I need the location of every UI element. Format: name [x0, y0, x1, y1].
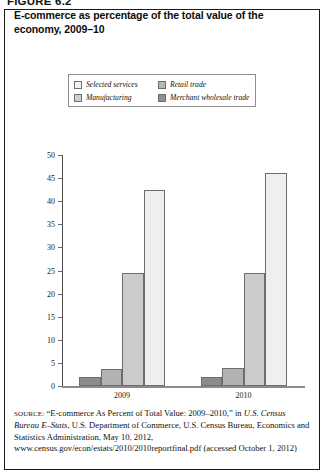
legend-label-merchant-wholesale-trade: Merchant wholesale trade: [170, 93, 249, 102]
legend-label-selected-services: Selected services: [86, 80, 138, 89]
y-tick-10: [58, 340, 62, 341]
legend-label-manufacturing: Manufacturing: [86, 93, 132, 102]
y-tick-label-40: 40: [47, 197, 55, 206]
figure-title: E-commerce as percentage of the total va…: [14, 9, 304, 36]
y-tick-label-0: 0: [51, 382, 55, 391]
legend-item-merchant-wholesale-trade: Merchant wholesale trade: [158, 93, 258, 102]
y-tick-45: [58, 178, 62, 179]
bar-2009-manufacturing: [122, 273, 144, 386]
y-tick-15: [58, 317, 62, 318]
legend-grid: Selected services Retail trade Manufactu…: [74, 78, 258, 104]
bar-2010-retail-trade: [222, 368, 244, 386]
legend-item-retail-trade: Retail trade: [158, 80, 258, 89]
y-tick-label-30: 30: [47, 243, 55, 252]
y-tick-label-50: 50: [47, 151, 55, 160]
figure-number-label: FIGURE 6.2: [7, 0, 72, 7]
bar-2009-merchant-wholesale-trade: [79, 377, 101, 386]
legend-item-manufacturing: Manufacturing: [74, 93, 158, 102]
y-tick-30: [58, 247, 62, 248]
legend-swatch-selected-services-icon: [74, 81, 82, 89]
y-tick-label-10: 10: [47, 335, 55, 344]
y-tick-50: [58, 155, 62, 156]
x-axis-line: [62, 386, 305, 388]
legend-swatch-merchant-wholesale-trade-icon: [158, 94, 166, 102]
legend-label-retail-trade: Retail trade: [170, 80, 206, 89]
bar-2010-selected-services: [265, 173, 287, 386]
y-tick-0: [58, 386, 62, 387]
y-tick-label-20: 20: [47, 289, 55, 298]
legend-item-selected-services: Selected services: [74, 80, 158, 89]
y-tick-20: [58, 294, 62, 295]
y-tick-label-45: 45: [47, 174, 55, 183]
legend-swatch-retail-trade-icon: [158, 81, 166, 89]
bar-2009-retail-trade: [101, 369, 123, 386]
source-label: SOURCE:: [14, 410, 44, 418]
bar-2010-merchant-wholesale-trade: [201, 377, 223, 386]
x-category-label-2010: 2010: [236, 391, 252, 400]
figure-page: FIGURE 6.2 E-commerce as percentage of t…: [0, 0, 324, 474]
source-text-1: “E-commerce As Percent of Total Value: 2…: [44, 408, 244, 418]
y-axis-line: [62, 155, 63, 386]
chart-plot-area: 05101520253035404550 20092010: [62, 155, 305, 386]
y-tick-5: [58, 363, 62, 364]
source-note: SOURCE: “E-commerce As Percent of Total …: [14, 408, 310, 455]
chart-legend: Selected services Retail trade Manufactu…: [68, 74, 256, 107]
bar-2009-selected-services: [144, 190, 166, 386]
y-tick-label-5: 5: [51, 358, 55, 367]
y-tick-label-25: 25: [47, 266, 55, 275]
y-tick-35: [58, 224, 62, 225]
y-tick-40: [58, 201, 62, 202]
y-tick-label-15: 15: [47, 312, 55, 321]
bar-2010-manufacturing: [244, 273, 266, 386]
x-category-label-2009: 2009: [114, 391, 130, 400]
y-tick-25: [58, 271, 62, 272]
y-tick-label-35: 35: [47, 220, 55, 229]
legend-swatch-manufacturing-icon: [74, 94, 82, 102]
